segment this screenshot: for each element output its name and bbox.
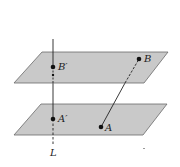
point-A-prime	[51, 117, 56, 122]
label-B: B	[144, 54, 151, 64]
lower-plane	[14, 104, 167, 135]
diagram-canvas: B′ A′ B A L	[0, 0, 180, 167]
artifact-speck	[143, 148, 145, 149]
label-B-prime: B′	[58, 62, 68, 72]
label-A: A	[105, 123, 112, 133]
point-B-prime	[51, 65, 56, 70]
point-A	[99, 125, 104, 130]
point-B	[137, 57, 142, 62]
label-A-prime: A′	[58, 114, 68, 124]
diagram-svg	[0, 0, 180, 167]
label-L: L	[50, 148, 57, 158]
point-B-prime-arrow	[52, 74, 54, 76]
